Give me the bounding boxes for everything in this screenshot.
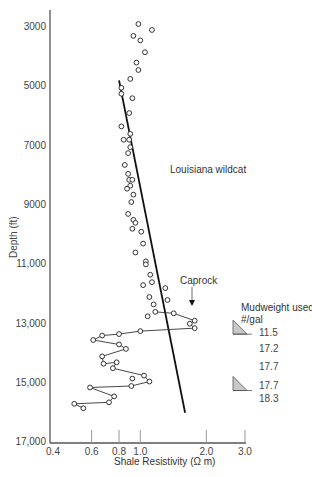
- data-point: [138, 38, 143, 43]
- data-point: [117, 332, 122, 337]
- data-point: [100, 333, 105, 338]
- data-point: [148, 272, 153, 277]
- data-point: [136, 22, 141, 27]
- data-point: [128, 145, 133, 150]
- mudweight-unit: #/gal: [241, 314, 263, 325]
- data-point: [130, 177, 135, 182]
- trend-line: [119, 80, 185, 412]
- caprock-arrow: [189, 287, 195, 306]
- data-point: [143, 262, 148, 267]
- mudweight-value: 18.3: [259, 393, 278, 404]
- mudweight-markers: [233, 320, 252, 390]
- data-point: [129, 384, 134, 389]
- data-point: [130, 226, 135, 231]
- data-point: [163, 286, 168, 291]
- data-point: [72, 401, 77, 406]
- data-point: [119, 85, 124, 90]
- data-point: [91, 338, 96, 343]
- data-point: [126, 212, 131, 217]
- data-point: [150, 280, 155, 285]
- y-tick-label: 9000: [2, 199, 46, 210]
- data-point: [133, 250, 138, 255]
- x-tick-label: 0.4: [38, 446, 68, 457]
- data-point: [101, 361, 106, 366]
- data-point: [142, 373, 147, 378]
- data-point: [145, 314, 150, 319]
- y-tick-label: 13,000: [2, 318, 46, 329]
- data-point: [147, 295, 152, 300]
- data-point: [126, 171, 131, 176]
- overpressure-line: [74, 312, 194, 408]
- data-point: [117, 342, 122, 347]
- series-connecting-lines: [74, 312, 194, 408]
- data-point: [187, 321, 192, 326]
- data-point: [131, 192, 136, 197]
- mudweight-value: 17.7: [259, 361, 278, 372]
- y-tick-label: 15,000: [2, 377, 46, 388]
- x-axis-title: Shale Resistivity (Ω m): [114, 456, 215, 467]
- y-tick-label: 5000: [2, 80, 46, 91]
- y-tick-label: 7000: [2, 140, 46, 151]
- data-point: [171, 311, 176, 316]
- data-point: [138, 329, 143, 334]
- data-point: [133, 220, 138, 225]
- data-point: [124, 347, 129, 352]
- y-axis-title: Depth (ft): [8, 216, 19, 258]
- data-point: [112, 394, 117, 399]
- data-point: [107, 400, 112, 405]
- data-point: [100, 354, 105, 359]
- data-point: [122, 163, 127, 168]
- data-point: [119, 124, 124, 129]
- data-point: [129, 200, 134, 205]
- mudweight-value: 11.5: [259, 327, 278, 338]
- data-point: [150, 28, 155, 33]
- annotation-caprock: Caprock: [180, 275, 217, 286]
- mudweight-value: 17.2: [259, 343, 278, 354]
- data-point: [119, 91, 124, 96]
- data-point: [134, 60, 139, 65]
- data-point: [165, 298, 170, 303]
- normal-compaction-trend: [119, 80, 185, 412]
- mudweight-value: 17.7: [259, 380, 278, 391]
- data-points: [72, 22, 197, 411]
- data-point: [128, 131, 133, 136]
- data-point: [192, 318, 197, 323]
- data-point: [110, 366, 115, 371]
- caprock-arrow-head: [189, 300, 195, 306]
- data-point: [143, 50, 148, 55]
- data-point: [141, 241, 146, 246]
- data-point: [192, 326, 197, 331]
- data-point: [121, 137, 126, 142]
- data-point: [127, 111, 132, 116]
- data-point: [125, 186, 130, 191]
- data-point: [81, 406, 86, 411]
- y-tick-label: 11,000: [2, 258, 46, 269]
- data-point: [130, 96, 135, 101]
- data-point: [136, 68, 141, 73]
- data-point: [114, 360, 119, 365]
- mudweight-title: Mudweight used: [241, 302, 312, 313]
- data-point: [127, 137, 132, 142]
- data-point: [128, 77, 133, 82]
- annotation-louisiana-wildcat: Louisiana wildcat: [170, 164, 246, 175]
- chart-canvas: [0, 0, 312, 477]
- data-point: [88, 385, 93, 390]
- data-point: [153, 309, 158, 314]
- data-point: [126, 151, 131, 156]
- data-point: [147, 379, 152, 384]
- mudweight-triangle-marker: [233, 377, 247, 391]
- data-point: [139, 229, 144, 234]
- data-point: [131, 34, 136, 39]
- data-point: [141, 283, 146, 288]
- data-point: [151, 302, 156, 307]
- y-tick-label: 3000: [2, 21, 46, 32]
- x-tick-label: 0.6: [77, 446, 107, 457]
- x-tick-label: 3.0: [230, 446, 260, 457]
- data-point: [130, 376, 135, 381]
